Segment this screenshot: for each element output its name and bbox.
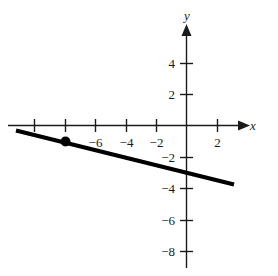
x-tick-label--4: −4 (120, 135, 134, 150)
y-axis-arrow-icon (182, 24, 192, 36)
plot-canvas: −6 −4 −2 2 4 2 −2 −4 −6 −8 x y (0, 0, 278, 276)
y-tick-label-4: 4 (169, 56, 176, 71)
coordinate-graph: −6 −4 −2 2 4 2 −2 −4 −6 −8 x y (0, 0, 278, 276)
x-tick-label-2: 2 (214, 135, 221, 150)
y-tick-label--6: −6 (161, 213, 175, 228)
x-axis-label: x (249, 118, 256, 133)
y-axis-label: y (182, 8, 190, 23)
y-tick-label-2: 2 (169, 87, 176, 102)
marked-point (61, 137, 71, 147)
x-tick-label--2: −2 (150, 135, 164, 150)
y-tick-label--8: −8 (161, 244, 175, 259)
x-tick-label--6: −6 (89, 135, 103, 150)
y-tick-label--2: −2 (161, 150, 175, 165)
y-tick-label--4: −4 (161, 181, 175, 196)
x-axis-arrow-icon (238, 121, 250, 131)
